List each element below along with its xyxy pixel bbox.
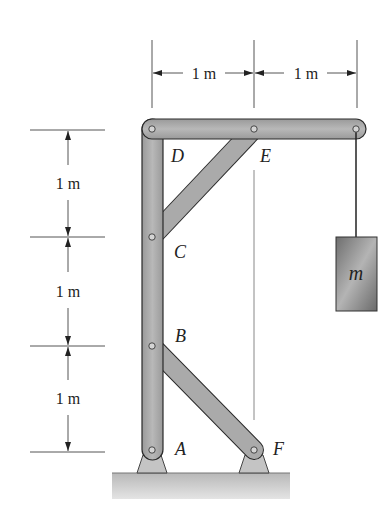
label-c: C <box>174 242 187 262</box>
dim-label-v1: 1 m <box>56 175 81 192</box>
pin-d <box>149 126 155 132</box>
pin-a <box>149 447 155 453</box>
dim-label-v2: 1 m <box>56 283 81 300</box>
label-e: E <box>259 146 271 166</box>
pin-f <box>251 447 257 453</box>
dim-label-v3: 1 m <box>56 390 81 407</box>
member-bf <box>152 346 254 450</box>
member-ce <box>152 129 254 237</box>
pin-rope <box>353 126 359 132</box>
label-a: A <box>174 439 187 459</box>
pin-b <box>149 343 155 349</box>
pin-c <box>149 234 155 240</box>
label-d: D <box>170 146 184 166</box>
dim-label-h1: 1 m <box>192 65 217 82</box>
frame-diagram: 1 m 1 m 1 m 1 m 1 m m <box>0 0 392 521</box>
horizontal-dimension <box>152 40 357 108</box>
dim-label-h2: 1 m <box>294 65 319 82</box>
ground <box>112 473 290 499</box>
pin-e <box>251 126 257 132</box>
member-ad <box>142 119 163 460</box>
label-f: F <box>272 439 285 459</box>
mass-label: m <box>349 262 363 284</box>
label-b: B <box>175 326 186 346</box>
